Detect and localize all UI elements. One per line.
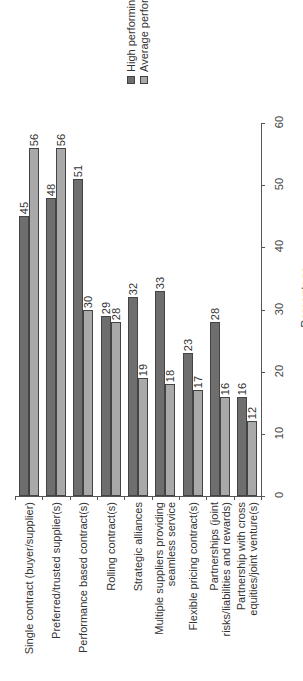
value-axis-tick-label: 0 xyxy=(273,485,285,505)
category-label-line2: risks/liabilities and rewards) xyxy=(220,502,232,681)
category-axis-tick xyxy=(124,496,125,500)
legend-label-high: High performing xyxy=(125,0,137,72)
value-axis-tick-label: 20 xyxy=(273,361,285,381)
category-label-line1: Rolling contract(s) xyxy=(105,502,117,681)
value-label-high: 48 xyxy=(45,180,57,200)
category-label-line1: Partnership with cross xyxy=(235,502,247,681)
value-axis-tick-label: 50 xyxy=(273,174,285,194)
legend-label-average: Average performing xyxy=(138,0,150,72)
bar-high-performing xyxy=(101,316,111,496)
category-label-line1: Partnerships (joint xyxy=(208,502,220,681)
value-label-high: 23 xyxy=(182,335,194,355)
value-axis-tick-label: 10 xyxy=(273,423,285,443)
category-label: Flexible pricing contract(s) xyxy=(187,502,199,681)
category-label-line1: Performance based contract(s) xyxy=(77,502,89,681)
category-axis-tick xyxy=(206,496,207,500)
category-axis-tick xyxy=(42,496,43,500)
bar-average-performing xyxy=(165,384,175,496)
category-label-line1: Single contract (buyer/supplier) xyxy=(23,502,35,681)
legend-swatch-high xyxy=(127,76,135,84)
category-label: Partnership with crossequities/joint ven… xyxy=(235,502,259,681)
category-axis-line xyxy=(15,496,262,497)
category-label-line2: seamless service xyxy=(165,502,177,681)
category-axis-tick xyxy=(15,496,16,500)
value-axis-tick-label: 60 xyxy=(273,112,285,132)
bar-high-performing xyxy=(19,216,29,496)
value-label-average: 28 xyxy=(110,304,122,324)
category-label: Performance based contract(s) xyxy=(77,502,89,681)
bar-high-performing xyxy=(210,322,220,496)
value-axis-tick xyxy=(261,247,265,248)
bar-average-performing xyxy=(220,397,230,496)
category-axis-tick xyxy=(152,496,153,500)
value-axis-tick xyxy=(261,185,265,186)
category-axis-tick xyxy=(97,496,98,500)
value-axis-tick-label: 30 xyxy=(273,299,285,319)
category-label-line2: equities/joint venture(s) xyxy=(247,502,259,681)
bar-average-performing xyxy=(138,378,148,496)
bar-high-performing xyxy=(155,291,165,496)
category-label-line1: Multiple suppliers providing xyxy=(153,502,165,681)
category-axis-tick xyxy=(70,496,71,500)
bar-average-performing xyxy=(111,322,121,496)
category-label: Multiple suppliers providingseamless ser… xyxy=(153,502,177,681)
legend-swatch-average xyxy=(140,76,148,84)
value-axis-tick xyxy=(261,372,265,373)
bar-high-performing xyxy=(128,297,138,496)
value-label-average: 30 xyxy=(82,292,94,312)
value-label-average: 56 xyxy=(28,130,40,150)
value-label-average: 56 xyxy=(55,130,67,150)
value-axis-title: Percentage xyxy=(299,266,303,327)
category-label: Rolling contract(s) xyxy=(105,502,117,681)
category-label-line1: Flexible pricing contract(s) xyxy=(187,502,199,681)
category-label-line1: Strategic alliances xyxy=(132,502,144,681)
bar-average-performing xyxy=(247,421,257,496)
category-label: Single contract (buyer/supplier) xyxy=(23,502,35,681)
bar-average-performing xyxy=(56,148,66,496)
value-axis-tick xyxy=(261,123,265,124)
category-label: Preferred/trusted supplier(s) xyxy=(50,502,62,681)
value-label-high: 16 xyxy=(236,379,248,399)
value-axis-tick-label: 40 xyxy=(273,236,285,256)
bar-average-performing xyxy=(193,390,203,496)
value-label-high: 33 xyxy=(154,273,166,293)
value-label-high: 28 xyxy=(209,304,221,324)
bar-average-performing xyxy=(83,310,93,497)
value-label-average: 18 xyxy=(164,366,176,386)
category-axis-tick xyxy=(234,496,235,500)
value-label-average: 17 xyxy=(192,372,204,392)
value-label-high: 45 xyxy=(18,198,30,218)
value-label-average: 19 xyxy=(137,360,149,380)
category-label: Partnerships (jointrisks/liabilities and… xyxy=(208,502,232,681)
value-label-high: 32 xyxy=(127,279,139,299)
bar-high-performing xyxy=(46,198,56,496)
value-axis-tick xyxy=(261,310,265,311)
category-label: Strategic alliances xyxy=(132,502,144,681)
value-axis-tick xyxy=(261,434,265,435)
bar-high-performing xyxy=(73,179,83,496)
value-label-average: 16 xyxy=(219,379,231,399)
value-label-high: 51 xyxy=(72,161,84,181)
category-axis-tick xyxy=(261,496,262,500)
category-label-line1: Preferred/trusted supplier(s) xyxy=(50,502,62,681)
bar-average-performing xyxy=(29,148,39,496)
category-axis-tick xyxy=(179,496,180,500)
value-label-average: 12 xyxy=(246,403,258,423)
